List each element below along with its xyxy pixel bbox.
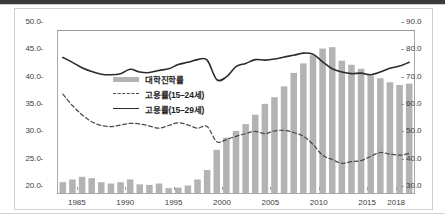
line-series-layer (58, 31, 414, 193)
x-axis-tick-label: 2005 (253, 199, 287, 207)
y-axis-right-tick-label: 30.0 (406, 182, 444, 190)
y-axis-left-tick-label: 50.0 (3, 18, 41, 26)
y-axis-left-tick-label: 45.0 (3, 45, 41, 53)
legend-label-dashed: 고용률(15–24세) (145, 88, 204, 100)
y-axis-left-tick-mark (40, 49, 43, 50)
y-axis-right-tick-label: 60.0 (406, 100, 444, 108)
x-axis-tick-mark (77, 187, 78, 190)
y-axis-right-tick-mark (401, 104, 404, 105)
x-axis-tick-label: 2000 (205, 199, 239, 207)
chart-legend: 대학진학률 고용률(15–24세) 고용률(15–29세) (113, 73, 204, 114)
legend-swatch-solid-line-icon (113, 104, 139, 114)
x-axis-tick-label: 1985 (60, 199, 94, 207)
y-axis-right-tick-label: 80.0 (406, 45, 444, 53)
bottom-divider-rule (0, 213, 445, 214)
legend-label-solid: 고용률(15–29세) (145, 103, 204, 115)
x-axis-tick-label: 1995 (157, 199, 191, 207)
y-axis-left-tick-label: 35.0 (3, 100, 41, 108)
chart-frame: 대학진학률 고용률(15–24세) 고용률(15–29세) 50.045.040… (14, 8, 433, 210)
y-axis-left-tick-mark (40, 77, 43, 78)
y-axis-left-tick-mark (40, 104, 43, 105)
legend-label-bar: 대학진학률 (145, 73, 184, 85)
legend-swatch-dashed-line-icon (113, 89, 139, 99)
legend-item-solid: 고용률(15–29세) (113, 103, 204, 114)
y-axis-right-tick-mark (401, 22, 404, 23)
x-axis-tick-mark (319, 187, 320, 190)
y-axis-left-tick-label: 40.0 (3, 73, 41, 81)
plot-area (57, 30, 415, 194)
legend-item-bar: 대학진학률 (113, 73, 204, 84)
x-axis-tick-mark (270, 187, 271, 190)
x-axis-tick-label: 2018 (379, 199, 413, 207)
x-axis-tick-mark (174, 187, 175, 190)
top-divider-rule (0, 4, 445, 5)
y-axis-right-tick-mark (401, 49, 404, 50)
y-axis-right-tick-label: 90.0 (406, 18, 444, 26)
y-axis-right-tick-label: 40.0 (406, 155, 444, 163)
y-axis-right-tick-mark (401, 159, 404, 160)
x-axis-tick-mark (396, 187, 397, 190)
y-axis-left-tick-label: 20.0 (3, 182, 41, 190)
y-axis-right-tick-label: 70.0 (406, 73, 444, 81)
y-axis-right-tick-mark (401, 131, 404, 132)
y-axis-right-tick-label: 50.0 (406, 127, 444, 135)
y-axis-left-tick-label: 30.0 (3, 127, 41, 135)
y-axis-left-tick-mark (40, 22, 43, 23)
x-axis-tick-mark (125, 187, 126, 190)
legend-swatch-bar-icon (113, 74, 139, 84)
x-axis-tick-label: 2010 (302, 199, 336, 207)
y-axis-left-tick-label: 25.0 (3, 155, 41, 163)
y-axis-left-tick-mark (40, 159, 43, 160)
chart-screenshot: 대학진학률 고용률(15–24세) 고용률(15–29세) 50.045.040… (0, 0, 445, 221)
x-axis-tick-mark (367, 187, 368, 190)
y-axis-left-tick-mark (40, 131, 43, 132)
y-axis-left-tick-mark (40, 186, 43, 187)
y-axis-right-tick-mark (401, 77, 404, 78)
x-axis-tick-mark (222, 187, 223, 190)
x-axis-tick-label: 1990 (108, 199, 142, 207)
legend-item-dashed: 고용률(15–24세) (113, 88, 204, 99)
y-axis-right-tick-mark (401, 186, 404, 187)
